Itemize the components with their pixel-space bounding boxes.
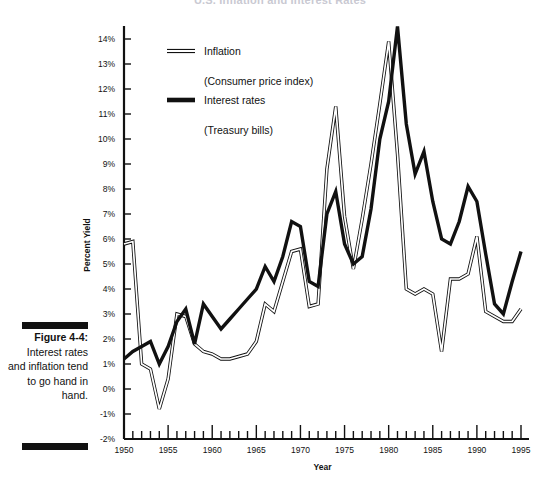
- x-axis-title: Year: [314, 462, 333, 472]
- series-line-interest: [124, 27, 521, 365]
- y-axis-tick-label: 2%: [103, 334, 116, 344]
- y-axis-tick-label: -2%: [100, 434, 116, 444]
- x-axis-tick-label: 1960: [203, 445, 222, 455]
- series-line-inflation-core: [124, 42, 521, 410]
- y-axis-tick-label: 6%: [103, 234, 116, 244]
- y-axis-tick-label: 13%: [98, 59, 115, 69]
- plot-area: -2%-1%0%1%2%3%4%5%6%7%8%9%10%11%12%13%14…: [0, 0, 560, 482]
- x-axis-tick-label: 1985: [423, 445, 442, 455]
- legend-label-inflation: Inflation: [204, 45, 241, 57]
- x-axis-tick-label: 1995: [512, 445, 531, 455]
- chart-svg: -2%-1%0%1%2%3%4%5%6%7%8%9%10%11%12%13%14…: [0, 0, 560, 482]
- y-axis: -2%-1%0%1%2%3%4%5%6%7%8%9%10%11%12%13%14…: [98, 26, 131, 444]
- chart-legend: Inflation(Consumer price index)Interest …: [167, 45, 313, 136]
- y-axis-title: Percent Yield: [82, 218, 92, 271]
- x-axis-tick-label: 1980: [379, 445, 398, 455]
- y-axis-tick-label: 12%: [98, 84, 115, 94]
- legend-label-interest: Interest rates: [204, 94, 265, 106]
- y-axis-tick-label: 7%: [103, 209, 116, 219]
- x-axis-tick-label: 1990: [467, 445, 486, 455]
- legend-sublabel-interest: (Treasury bills): [204, 124, 273, 136]
- x-axis: 1950195519601965197019751980198519901995: [115, 425, 531, 455]
- axis-titles: YearPercent Yield: [82, 218, 332, 472]
- y-axis-tick-label: 0%: [103, 384, 116, 394]
- y-axis-tick-label: 10%: [98, 134, 115, 144]
- y-axis-tick-label: -1%: [100, 409, 116, 419]
- y-axis-tick-label: 14%: [98, 34, 115, 44]
- x-axis-tick-label: 1975: [335, 445, 354, 455]
- y-axis-tick-label: 3%: [103, 309, 116, 319]
- y-axis-tick-label: 5%: [103, 259, 116, 269]
- legend-sublabel-inflation: (Consumer price index): [204, 75, 313, 87]
- y-axis-tick-label: 9%: [103, 159, 116, 169]
- y-axis-tick-label: 11%: [99, 109, 116, 119]
- x-axis-tick-label: 1965: [247, 445, 266, 455]
- x-axis-tick-label: 1955: [159, 445, 178, 455]
- figure-chart: U.S. Inflation and Interest Rates Figure…: [0, 0, 560, 482]
- y-axis-tick-label: 8%: [103, 184, 116, 194]
- y-axis-tick-label: 4%: [103, 284, 116, 294]
- x-axis-tick-label: 1970: [291, 445, 310, 455]
- y-axis-tick-label: 1%: [103, 359, 116, 369]
- data-series: [124, 27, 521, 410]
- x-axis-tick-label: 1950: [115, 445, 134, 455]
